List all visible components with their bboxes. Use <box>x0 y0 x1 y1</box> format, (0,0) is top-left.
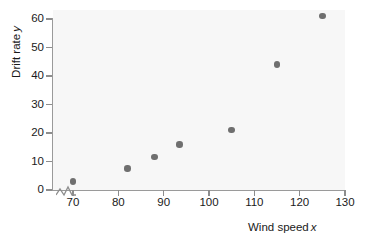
y-axis-title: Drift ratey <box>10 2 22 102</box>
y-axis-tick <box>46 189 52 190</box>
plot-area <box>53 10 345 190</box>
axis-break-zigzag-icon <box>56 183 82 197</box>
data-point <box>124 165 130 171</box>
x-axis-tick-label: 130 <box>325 197 365 209</box>
y-axis-line <box>52 18 53 191</box>
y-axis-tick-label: 10 <box>18 156 44 168</box>
y-axis-title-text: Drift rate <box>10 34 22 78</box>
x-axis-tick-label: 110 <box>234 197 274 209</box>
y-axis-tick <box>46 161 52 162</box>
y-axis-tick <box>46 47 52 48</box>
x-axis-tick-label: 90 <box>144 197 184 209</box>
x-axis-tick-label: 80 <box>98 197 138 209</box>
data-point <box>274 61 280 67</box>
scatter-plot-figure: 0102030405060 708090100110120130 Drift r… <box>0 0 366 244</box>
data-point <box>176 141 182 147</box>
y-axis-tick <box>46 132 52 133</box>
y-axis-tick-label: 0 <box>18 184 44 196</box>
x-axis-line <box>52 190 345 191</box>
y-axis-tick <box>46 18 52 19</box>
y-axis-tick <box>46 75 52 76</box>
y-axis-variable: y <box>10 26 22 34</box>
x-axis-tick-label: 120 <box>280 197 320 209</box>
x-axis-tick-label: 100 <box>189 197 229 209</box>
y-axis-tick <box>46 104 52 105</box>
data-point <box>319 13 325 19</box>
x-axis-title-text: Wind speed <box>248 221 309 233</box>
x-axis-variable: x <box>309 221 317 233</box>
x-axis-title: Wind speedx <box>248 221 316 233</box>
x-axis-tick-label: 70 <box>53 197 93 209</box>
y-axis-tick-label: 20 <box>18 127 44 139</box>
